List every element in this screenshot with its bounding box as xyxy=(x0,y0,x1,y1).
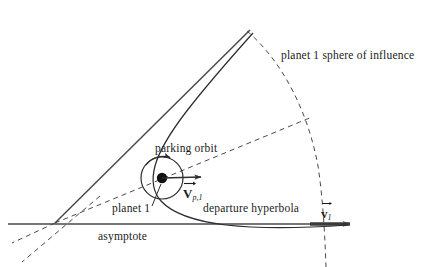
label-parking-orbit: parking orbit xyxy=(155,143,217,155)
departure-hyperbola-figure: planet 1 sphere of influence parking orb… xyxy=(0,0,442,267)
v-planet-symbol: V xyxy=(183,186,192,201)
v-planet-subscript: p,1 xyxy=(192,193,202,202)
diagram-canvas xyxy=(0,0,442,267)
label-departure-hyperbola: departure hyperbola xyxy=(203,203,299,215)
label-asymptote: asymptote xyxy=(98,231,147,243)
label-planet-velocity-vector: Vp,1 xyxy=(183,185,203,202)
planet-velocity-vector xyxy=(162,177,201,178)
hyperbola-asymptote-line xyxy=(55,30,250,223)
label-sphere-of-influence: planet 1 sphere of influence xyxy=(281,50,414,62)
label-planet-1: planet 1 xyxy=(112,203,150,215)
v1-subscript: 1 xyxy=(328,213,332,222)
sphere-of-influence-arc xyxy=(247,31,326,267)
label-v1-vector: v1 xyxy=(321,205,332,222)
asymptote-mirror-dashed xyxy=(22,196,100,262)
